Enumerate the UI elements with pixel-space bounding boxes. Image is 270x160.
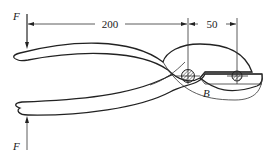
force-arrow-top: F — [12, 10, 29, 49]
force-label-top: F — [12, 10, 20, 22]
force-label-bottom: F — [12, 140, 20, 152]
dimension-50-label: 50 — [207, 18, 219, 30]
lower-handle — [16, 72, 263, 115]
dimension-200: 200 — [28, 18, 187, 30]
pliers-diagram: 200 50 F F B — [0, 0, 270, 160]
force-arrow-bottom: F — [12, 116, 29, 152]
dimension-200-label: 200 — [102, 18, 119, 30]
dimension-50: 50 — [189, 18, 236, 30]
pin-label-b: B — [203, 87, 210, 99]
